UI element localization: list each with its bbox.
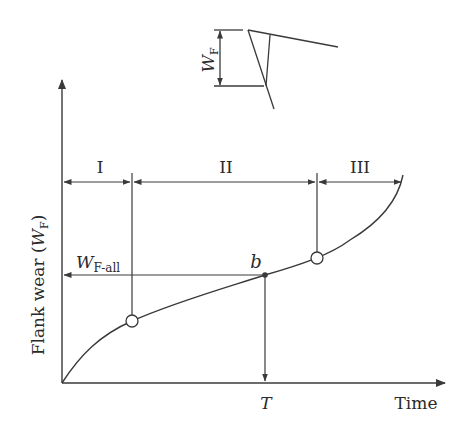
y-axis-label: Flank wear (WF) — [28, 215, 51, 356]
flank-wear-diagram: WF Flank wear (WF) Time T I II III WF-al… — [0, 0, 468, 429]
region-dividers — [132, 173, 317, 315]
transition-point-i-ii — [126, 315, 138, 327]
tool-life-label: T — [260, 393, 273, 413]
region-ii-label: II — [219, 157, 232, 177]
region-i-label: I — [97, 157, 104, 177]
allowable-wear-label: WF-all — [76, 252, 120, 275]
inset-wear-land — [266, 35, 270, 86]
axes — [62, 80, 445, 383]
region-iii-label: III — [350, 157, 370, 177]
point-b-marker — [262, 272, 268, 278]
inset-rake-face — [248, 30, 338, 47]
x-axis-label: Time — [395, 393, 438, 413]
transition-point-ii-iii — [311, 252, 323, 264]
point-b-label: b — [250, 251, 262, 272]
wear-curve — [62, 175, 403, 383]
inset-wf-label: WF — [198, 47, 221, 72]
tool-inset — [214, 30, 338, 109]
